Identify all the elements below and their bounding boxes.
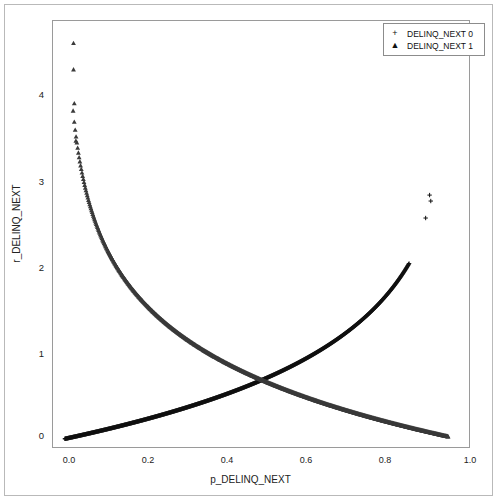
xtick-label-4: 0.8 xyxy=(365,455,405,465)
data-points-canvas xyxy=(53,21,470,448)
legend-entry-delinq-next-0: + DELINQ_NEXT 0 xyxy=(388,28,479,39)
plus-marker-icon: + xyxy=(388,29,402,38)
triangle-marker-icon: ▲ xyxy=(388,41,402,50)
ytick-label-3: 3 xyxy=(22,176,44,187)
y-axis-label: r_DELINQ_NEXT xyxy=(11,154,22,294)
xtick-label-5: 1.0 xyxy=(450,455,490,465)
xtick-label-3: 0.6 xyxy=(286,455,326,465)
x-axis-label: p_DELINQ_NEXT xyxy=(0,474,501,485)
legend: + DELINQ_NEXT 0 ▲ DELINQ_NEXT 1 xyxy=(383,23,485,56)
plot-area xyxy=(52,20,470,448)
ytick-label-1: 1 xyxy=(22,348,44,359)
scatter-plot-figure: 0.0 0.2 0.4 0.6 0.8 1.0 0 1 2 3 4 p_DELI… xyxy=(0,0,501,504)
legend-label-delinq-next-0: DELINQ_NEXT 0 xyxy=(402,29,473,39)
legend-label-delinq-next-1: DELINQ_NEXT 1 xyxy=(402,41,473,51)
ytick-label-4: 4 xyxy=(22,89,44,100)
xtick-label-2: 0.4 xyxy=(207,455,247,465)
ytick-label-2: 2 xyxy=(22,262,44,273)
xtick-label-1: 0.2 xyxy=(128,455,168,465)
xtick-label-0: 0.0 xyxy=(49,455,89,465)
legend-entry-delinq-next-1: ▲ DELINQ_NEXT 1 xyxy=(388,40,479,51)
ytick-label-0: 0 xyxy=(22,430,44,441)
